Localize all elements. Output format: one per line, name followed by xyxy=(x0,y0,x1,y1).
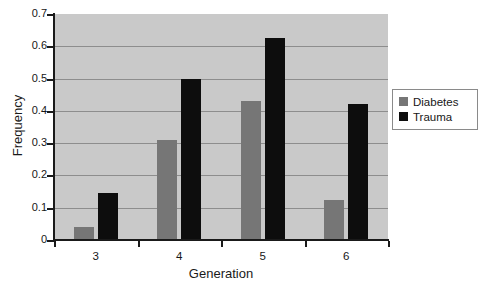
y-tick-mark xyxy=(47,240,54,242)
plot-area xyxy=(54,14,388,240)
gridline xyxy=(54,46,388,47)
y-tick-label-wrap: 0.1 xyxy=(0,202,47,213)
y-tick-mark xyxy=(47,46,54,48)
bar-trauma-gen-3 xyxy=(98,193,118,240)
bar-diabetes-gen-6 xyxy=(324,200,344,240)
bar-trauma-gen-4 xyxy=(181,79,201,240)
y-tick-label-wrap: 0.6 xyxy=(0,40,47,51)
y-tick-mark xyxy=(47,111,54,113)
x-tick-label: 3 xyxy=(81,250,111,262)
x-tick-mark xyxy=(138,241,140,247)
y-tick-label-wrap: 0.7 xyxy=(0,8,47,19)
y-tick-mark xyxy=(47,175,54,177)
y-tick-mark xyxy=(47,208,54,210)
legend-label-diabetes: Diabetes xyxy=(413,96,458,108)
bar-diabetes-gen-4 xyxy=(157,140,177,240)
y-tick-mark xyxy=(47,79,54,81)
legend-label-trauma: Trauma xyxy=(413,111,452,123)
x-tick-mark xyxy=(388,241,390,247)
legend-swatch-trauma-icon xyxy=(399,112,408,121)
bar-chart-figure: 00.10.20.30.40.50.60.7 3456 Generation F… xyxy=(0,0,484,288)
y-tick-mark xyxy=(47,14,54,16)
bar-diabetes-gen-5 xyxy=(241,101,261,240)
legend-item-diabetes: Diabetes xyxy=(399,94,472,109)
y-tick-label: 0 xyxy=(3,234,47,245)
x-tick-mark xyxy=(305,241,307,247)
x-tick-label: 5 xyxy=(248,250,278,262)
gridline xyxy=(54,111,388,112)
gridline xyxy=(54,143,388,144)
bar-trauma-gen-5 xyxy=(265,38,285,240)
gridline xyxy=(54,79,388,80)
y-tick-mark xyxy=(47,143,54,145)
bar-trauma-gen-6 xyxy=(348,104,368,240)
legend: Diabetes Trauma xyxy=(392,89,478,130)
y-axis-label: Frequency xyxy=(10,76,25,176)
legend-item-trauma: Trauma xyxy=(399,109,472,124)
x-tick-label: 4 xyxy=(164,250,194,262)
y-tick-label: 0.1 xyxy=(3,202,47,213)
x-tick-mark xyxy=(221,241,223,247)
gridline xyxy=(54,175,388,176)
y-tick-label-wrap: 0 xyxy=(0,234,47,245)
y-tick-label: 0.6 xyxy=(3,40,47,51)
x-tick-label: 6 xyxy=(331,250,361,262)
y-tick-label: 0.7 xyxy=(3,8,47,19)
x-axis-label: Generation xyxy=(54,266,388,281)
x-tick-mark xyxy=(54,241,56,247)
legend-swatch-diabetes-icon xyxy=(399,97,408,106)
